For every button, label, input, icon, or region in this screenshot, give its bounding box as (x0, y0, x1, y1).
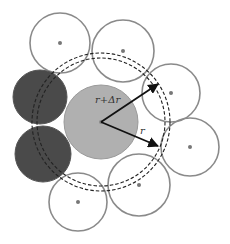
label-r-plus-delta-r: r+Δr (95, 94, 121, 105)
radial-distribution-diagram: r+Δr r (0, 0, 230, 244)
center-dot-icon (121, 49, 125, 53)
diagram-canvas: r+Δr r (0, 0, 230, 244)
center-dot-icon (76, 200, 80, 204)
neighbor-particle-top-left (30, 13, 90, 73)
center-dot-icon (188, 145, 192, 149)
center-dot-icon (137, 183, 141, 187)
shaded-particle-dark-upper (13, 70, 67, 124)
center-dot-icon (58, 41, 62, 45)
neighbor-particle-bottom-middle (108, 154, 170, 216)
neighbor-particle-top-middle (92, 20, 154, 82)
shaded-particle-dark-lower (15, 126, 71, 182)
neighbor-particle-right-upper (142, 64, 200, 122)
neighbor-particle-right-lower (161, 118, 219, 176)
center-dot-icon (169, 91, 173, 95)
label-r: r (140, 125, 146, 136)
